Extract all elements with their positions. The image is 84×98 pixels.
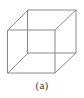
figure-container: (a) <box>0 0 84 98</box>
cube-connector-edges <box>8 10 76 73</box>
edge-top-left-connector <box>8 10 28 30</box>
edge-top-right-connector <box>55 10 76 30</box>
edge-bottom-right-connector <box>55 53 76 73</box>
necker-cube-diagram <box>0 0 84 80</box>
edge-bottom-left-connector <box>8 53 28 73</box>
figure-caption-label: (a) <box>0 78 84 92</box>
